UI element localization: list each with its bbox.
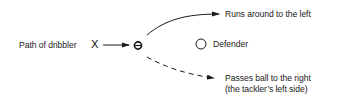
dribbling-diagram: Path of dribbler X Runs around to the le…: [0, 0, 342, 104]
ball-icon: [134, 42, 141, 49]
run-around-left-label: Runs around to the left: [225, 9, 311, 19]
dribbler-x-icon: X: [91, 39, 99, 50]
pass-right-label-line1: Passes ball to the right: [225, 73, 311, 83]
defender-label: Defender: [213, 39, 248, 49]
pass-right-arrow: [147, 57, 214, 78]
defender-icon: [196, 39, 206, 49]
dribbler-label: Path of dribbler: [19, 40, 76, 50]
pass-right-label-line2: (the tackler’s left side): [225, 84, 308, 94]
run-around-left-arrow: [147, 14, 219, 35]
